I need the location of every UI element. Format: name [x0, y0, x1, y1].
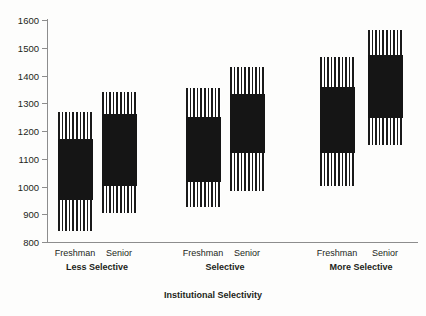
x-axis-group-label: Selective	[165, 262, 285, 272]
range-bar	[186, 88, 221, 207]
y-axis-tick-mark	[42, 242, 47, 243]
x-axis-subcategory-label: Senior	[355, 248, 415, 258]
bar-box-solid	[320, 87, 355, 152]
plot-area	[47, 20, 418, 242]
x-axis-title: Institutional Selectivity	[0, 290, 426, 300]
x-axis-subcategory-label: Senior	[217, 248, 277, 258]
x-axis-subcategory-label: Senior	[89, 248, 149, 258]
bar-box-solid	[58, 139, 93, 200]
bar-box-solid	[230, 94, 265, 153]
range-bar	[58, 112, 93, 231]
x-axis-group-label: Less Selective	[37, 262, 157, 272]
range-bar	[102, 92, 137, 213]
bar-box-solid	[102, 114, 137, 186]
chart-container: 8009001000110012001300140015001600 Fresh…	[0, 0, 426, 316]
bar-box-solid	[186, 117, 221, 182]
range-bar	[230, 67, 265, 191]
bar-box-solid	[368, 55, 403, 118]
range-bar	[320, 57, 355, 186]
x-axis-line	[47, 242, 418, 243]
x-axis-group-label: More Selective	[301, 262, 421, 272]
range-bar	[368, 30, 403, 145]
